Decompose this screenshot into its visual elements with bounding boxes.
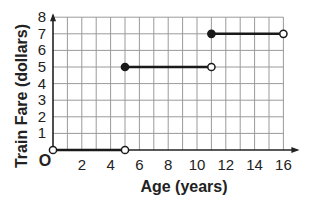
open-point: [208, 63, 215, 70]
open-point: [121, 146, 128, 153]
y-tick-label: 5: [38, 58, 46, 75]
open-point: [280, 30, 287, 37]
step-function-chart: 24681012141612345678 Age (years) Train F…: [0, 0, 315, 203]
x-tick-label: 6: [135, 156, 143, 173]
x-tick-label: 2: [78, 156, 86, 173]
closed-point: [208, 30, 215, 37]
y-tick-label: 3: [38, 91, 46, 108]
x-tick-label: 12: [217, 156, 234, 173]
origin-label: O: [39, 152, 51, 169]
x-tick-label: 10: [189, 156, 206, 173]
y-axis-label: Train Fare (dollars): [13, 24, 30, 168]
y-tick-label: 7: [38, 25, 46, 42]
grid: [53, 17, 283, 150]
y-tick-label: 8: [38, 8, 46, 25]
x-tick-label: 14: [246, 156, 263, 173]
x-tick-label: 8: [164, 156, 172, 173]
y-tick-label: 4: [38, 75, 46, 92]
closed-point: [121, 63, 128, 70]
y-tick-label: 2: [38, 108, 46, 125]
x-axis-arrow-icon: [291, 147, 299, 153]
x-tick-label: 4: [106, 156, 114, 173]
y-tick-label: 6: [38, 41, 46, 58]
x-axis-label: Age (years): [140, 178, 227, 195]
x-tick-label: 16: [275, 156, 292, 173]
y-tick-label: 1: [38, 124, 46, 141]
